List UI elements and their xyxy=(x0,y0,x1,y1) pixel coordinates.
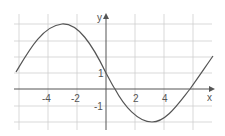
tick-labels: -4 -2 2 4 1 -1 x y xyxy=(42,12,212,112)
x-axis-label: x xyxy=(207,92,212,103)
grid xyxy=(14,14,212,130)
x-tick-label: -2 xyxy=(71,93,80,104)
y-axis-arrow-icon xyxy=(103,13,109,19)
y-axis-label: y xyxy=(97,12,102,23)
y-tick-label: 1 xyxy=(98,68,104,79)
function-graph: -4 -2 2 4 1 -1 x y xyxy=(0,0,225,136)
y-tick-label: -1 xyxy=(94,101,103,112)
x-tick-label: 2 xyxy=(133,93,139,104)
x-tick-label: 4 xyxy=(162,93,168,104)
x-tick-label: -4 xyxy=(42,93,51,104)
